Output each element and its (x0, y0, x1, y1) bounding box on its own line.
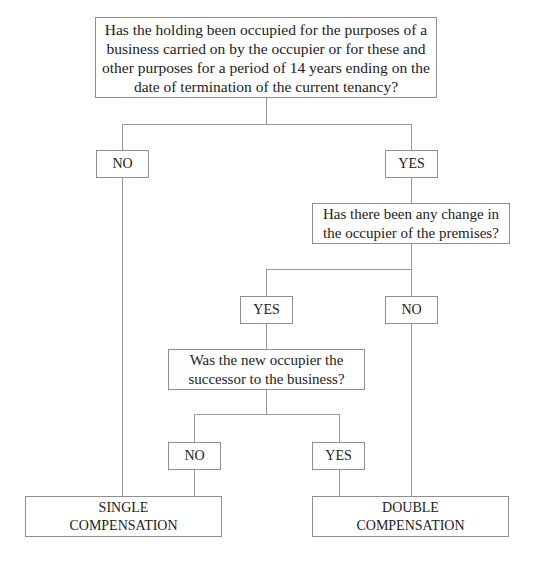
connector-q2-yes (266, 269, 267, 296)
q1-yes-label: YES (398, 156, 424, 172)
connector-q3-down (266, 390, 267, 414)
single-compensation-label: SINGLE COMPENSATION (64, 499, 184, 535)
connector-q3-no (194, 414, 195, 442)
q3-yes-box: YES (312, 442, 365, 470)
connector-q2-no-to-double (411, 324, 412, 496)
question-1-text: Has the holding been occupied for the pu… (102, 20, 430, 96)
connector-q1-yes-to-q2 (411, 177, 412, 203)
q1-yes-box: YES (385, 150, 438, 178)
single-compensation-box: SINGLE COMPENSATION (25, 496, 222, 537)
question-2-box: Has there been any change in the occupie… (312, 203, 510, 244)
q2-yes-box: YES (240, 296, 293, 324)
q2-yes-label: YES (253, 302, 279, 318)
connector-q3-no-to-single (194, 470, 195, 496)
connector-q3-yes (339, 414, 340, 442)
q2-no-label: NO (401, 302, 421, 318)
connector-q1-no (122, 124, 123, 150)
connector-q1-branch (122, 124, 412, 125)
connector-q2-yes-to-q3 (266, 324, 267, 349)
connector-q1-down (266, 98, 267, 124)
connector-q3-yes-to-double (339, 470, 340, 496)
question-1-box: Has the holding been occupied for the pu… (95, 17, 437, 98)
q1-no-box: NO (96, 150, 149, 178)
question-2-text: Has there been any change in the occupie… (313, 205, 509, 243)
question-3-box: Was the new occupier the successor to th… (168, 349, 365, 390)
connector-q1-yes (411, 124, 412, 150)
q3-no-label: NO (184, 448, 204, 464)
question-3-text: Was the new occupier the successor to th… (169, 351, 364, 389)
connector-q3-branch (194, 414, 340, 415)
double-compensation-box: DOUBLE COMPENSATION (312, 496, 509, 537)
q2-no-box: NO (385, 296, 438, 324)
connector-q2-down (411, 244, 412, 296)
q1-no-label: NO (112, 156, 132, 172)
q3-no-box: NO (168, 442, 221, 470)
double-compensation-label: DOUBLE COMPENSATION (351, 499, 471, 535)
connector-q2-branch (266, 269, 412, 270)
q3-yes-label: YES (325, 448, 351, 464)
connector-q1-no-to-single (122, 177, 123, 496)
